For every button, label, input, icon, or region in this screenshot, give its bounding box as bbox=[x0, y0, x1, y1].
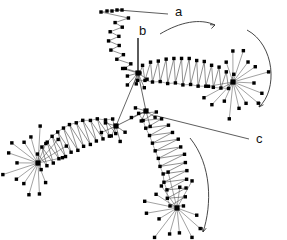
graph-node bbox=[107, 39, 110, 42]
graph-node bbox=[123, 131, 126, 134]
graph-node bbox=[168, 232, 171, 235]
graph-node bbox=[57, 157, 60, 160]
graph-node bbox=[40, 145, 43, 148]
graph-canvas: a b c bbox=[0, 0, 287, 240]
graph-node bbox=[167, 124, 170, 127]
graph-node bbox=[75, 121, 78, 124]
graph-edge bbox=[233, 67, 255, 82]
graph-node bbox=[135, 82, 138, 85]
graph-node bbox=[113, 21, 116, 24]
graph-edge bbox=[110, 27, 122, 32]
graph-node bbox=[162, 181, 165, 184]
leader-line-c bbox=[157, 116, 249, 139]
graph-node bbox=[228, 117, 231, 120]
graph-node bbox=[136, 79, 139, 82]
graph-node bbox=[178, 231, 181, 234]
graph-node bbox=[101, 137, 104, 140]
graph-node bbox=[172, 57, 175, 60]
graph-edge bbox=[174, 58, 176, 82]
graph-edge bbox=[191, 61, 197, 85]
graph-edge bbox=[101, 12, 128, 18]
graph-node bbox=[44, 181, 47, 184]
graph-node bbox=[183, 153, 186, 156]
graph-node bbox=[227, 87, 230, 90]
hub-node bbox=[143, 108, 148, 113]
graph-node bbox=[140, 119, 143, 122]
graph-node bbox=[99, 10, 102, 13]
graph-edge bbox=[160, 59, 166, 81]
graph-node bbox=[158, 165, 161, 168]
graph-node bbox=[180, 57, 183, 60]
graph-node bbox=[69, 151, 72, 154]
graph-node bbox=[203, 60, 206, 63]
graph-node bbox=[10, 141, 13, 144]
graph-edge bbox=[76, 123, 83, 147]
arrow-top bbox=[160, 22, 215, 34]
graph-node bbox=[154, 193, 157, 196]
graph-node bbox=[15, 177, 18, 180]
graph-node bbox=[184, 186, 187, 189]
graph-node bbox=[22, 182, 25, 185]
graph-node bbox=[148, 125, 151, 128]
graph-node bbox=[182, 204, 185, 207]
graph-edge bbox=[168, 58, 174, 83]
graph-node bbox=[39, 168, 42, 171]
graph-node bbox=[120, 8, 123, 11]
hub-node bbox=[230, 79, 235, 84]
graph-edge bbox=[155, 208, 177, 237]
graph-node bbox=[158, 80, 161, 83]
graph-node bbox=[212, 86, 215, 89]
graph-edge bbox=[233, 82, 254, 83]
arrow-bottom bbox=[190, 138, 209, 232]
graph-node bbox=[153, 149, 156, 152]
graph-edge bbox=[83, 120, 97, 141]
graph-node bbox=[145, 212, 148, 215]
graph-node bbox=[126, 74, 129, 77]
graph-node bbox=[166, 82, 169, 85]
graph-node bbox=[104, 121, 107, 124]
graph-node bbox=[195, 59, 198, 62]
graph-node bbox=[161, 172, 164, 175]
graph-node bbox=[246, 60, 249, 63]
graph-node bbox=[115, 58, 118, 61]
graph-node bbox=[44, 142, 47, 145]
graph-edge bbox=[233, 72, 269, 82]
graph-node bbox=[137, 112, 140, 115]
graph-edge bbox=[38, 163, 46, 183]
graph-node bbox=[96, 117, 99, 120]
graph-edge bbox=[76, 123, 90, 145]
hub-node bbox=[113, 123, 118, 128]
graph-node bbox=[127, 16, 130, 19]
graph-node bbox=[65, 144, 68, 147]
graph-node bbox=[134, 106, 137, 109]
graph-node bbox=[56, 138, 59, 141]
arrowhead bbox=[210, 25, 215, 29]
curved-arrow-layer bbox=[160, 22, 271, 232]
graph-node bbox=[109, 48, 112, 51]
graph-node bbox=[64, 155, 67, 158]
graph-node bbox=[184, 195, 187, 198]
graph-node bbox=[217, 65, 220, 68]
graph-edge bbox=[31, 137, 38, 163]
graph-node bbox=[155, 110, 158, 113]
graph-node bbox=[145, 78, 148, 81]
graph-edge bbox=[224, 82, 233, 101]
graph-node bbox=[38, 192, 41, 195]
graph-edge bbox=[90, 120, 103, 138]
graph-edge bbox=[206, 65, 212, 86]
graph-edge bbox=[29, 163, 38, 195]
graph-node bbox=[168, 204, 171, 207]
hub-node bbox=[35, 160, 40, 165]
graph-edge bbox=[226, 72, 228, 89]
graph-node bbox=[126, 83, 129, 86]
graph-node bbox=[52, 161, 55, 164]
graph-node bbox=[199, 227, 202, 230]
hub-node bbox=[174, 205, 179, 210]
graph-node bbox=[27, 193, 30, 196]
graph-edge bbox=[116, 73, 138, 126]
graph-node bbox=[210, 64, 213, 67]
graph-node bbox=[157, 217, 160, 220]
graph-edge bbox=[143, 65, 145, 80]
graph-node bbox=[117, 35, 120, 38]
graph-node bbox=[177, 137, 180, 140]
